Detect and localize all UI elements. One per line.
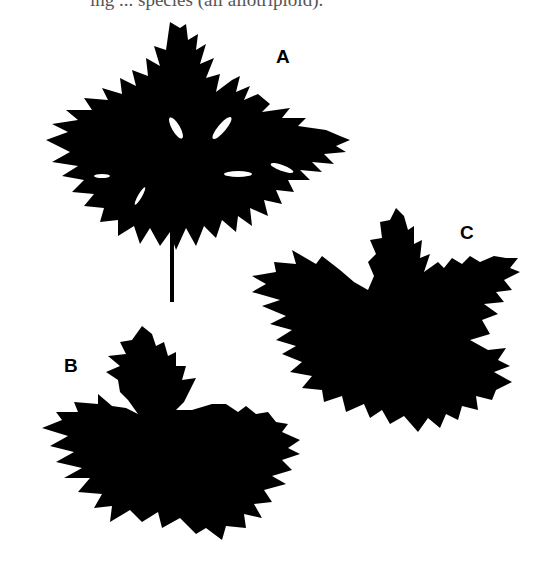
leaf-c-silhouette <box>252 208 520 432</box>
panel-label-b: B <box>64 355 78 377</box>
leaf-b-silhouette <box>42 326 300 540</box>
panel-label-a: A <box>276 46 290 68</box>
panel-label-c: C <box>460 222 474 244</box>
leaf-silhouettes <box>0 0 543 573</box>
